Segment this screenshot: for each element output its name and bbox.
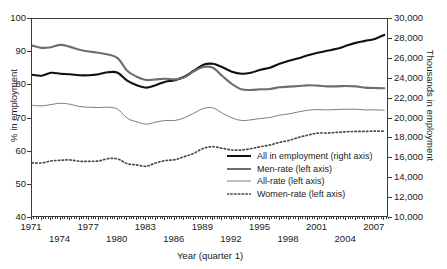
y-axis-right-label: 10,000 (394, 212, 436, 222)
y-axis-right-label: 14,000 (394, 172, 436, 182)
chart-figure: % in employment Thousands in employment … (0, 0, 447, 269)
legend-label: Women-rate (left axis) (257, 188, 345, 201)
y-axis-left-label: 80 (0, 79, 26, 89)
x-axis-label: 1998 (272, 234, 304, 244)
y-axis-right-label: 20,000 (394, 113, 436, 123)
series-line (32, 35, 384, 88)
x-axis-label: 1980 (101, 234, 133, 244)
y-axis-left-label: 90 (0, 46, 26, 56)
y-axis-right-label: 12,000 (394, 192, 436, 202)
legend-item[interactable]: Men-rate (left axis) (227, 163, 373, 176)
y-axis-right-label: 28,000 (394, 33, 436, 43)
y-axis-right-label: 18,000 (394, 132, 436, 142)
x-axis-label: 2007 (358, 222, 390, 232)
x-axis-label: 2004 (329, 234, 361, 244)
x-axis-label: 1986 (158, 234, 190, 244)
chart-legend: All in employment (right axis)Men-rate (… (227, 150, 373, 200)
x-axis-title: Year (quarter 1) (0, 250, 420, 261)
legend-swatch-icon (227, 177, 251, 185)
y-axis-right-label: 22,000 (394, 93, 436, 103)
legend-swatch-icon (227, 190, 251, 198)
legend-item[interactable]: All-rate (left axis) (227, 175, 373, 188)
x-axis-label: 1992 (215, 234, 247, 244)
series-line (32, 45, 384, 90)
x-axis-label: 1995 (243, 222, 275, 232)
series-line (32, 103, 384, 124)
legend-swatch-icon (227, 152, 251, 160)
x-axis-label: 1971 (15, 222, 47, 232)
legend-label: All-rate (left axis) (257, 175, 325, 188)
x-axis-label: 1974 (44, 234, 76, 244)
x-axis-label: 1983 (129, 222, 161, 232)
y-axis-right-label: 30,000 (394, 13, 436, 23)
y-axis-left-label: 60 (0, 146, 26, 156)
legend-item[interactable]: All in employment (right axis) (227, 150, 373, 163)
x-axis-label: 2001 (301, 222, 333, 232)
legend-label: Men-rate (left axis) (257, 163, 332, 176)
legend-label: All in employment (right axis) (257, 150, 373, 163)
x-axis-label: 1989 (186, 222, 218, 232)
legend-item[interactable]: Women-rate (left axis) (227, 188, 373, 201)
y-axis-left-label: 50 (0, 179, 26, 189)
y-axis-right-label: 24,000 (394, 73, 436, 83)
y-axis-left-label: 100 (0, 13, 26, 23)
y-axis-right-label: 26,000 (394, 53, 436, 63)
legend-swatch-icon (227, 165, 251, 173)
y-axis-right-label: 16,000 (394, 152, 436, 162)
y-axis-left-label: 70 (0, 113, 26, 123)
x-axis-label: 1977 (72, 222, 104, 232)
